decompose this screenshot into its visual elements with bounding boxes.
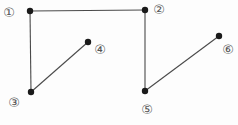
vertex-label-3: ③ [8, 95, 20, 110]
edge-1-2 [30, 10, 145, 11]
graph-svg: ①②③④⑤⑥ [0, 0, 238, 125]
vertex-dot-1 [27, 8, 33, 14]
vertex-dot-2 [142, 7, 148, 13]
vertex-dot-6 [216, 33, 222, 39]
vertex-label-6: ⑥ [222, 42, 234, 57]
edge-1-3 [30, 11, 31, 92]
edge-3-4 [31, 42, 88, 92]
vertex-dot-5 [142, 88, 148, 94]
vertex-dot-4 [85, 39, 91, 45]
vertex-label-5: ⑤ [141, 102, 153, 117]
vertex-label-4: ④ [94, 42, 106, 57]
vertex-label-1: ① [3, 5, 15, 20]
vertex-dot-3 [28, 89, 34, 95]
vertex-label-2: ② [153, 2, 165, 17]
graph-figure: ①②③④⑤⑥ [0, 0, 238, 125]
edge-5-6 [145, 36, 219, 91]
